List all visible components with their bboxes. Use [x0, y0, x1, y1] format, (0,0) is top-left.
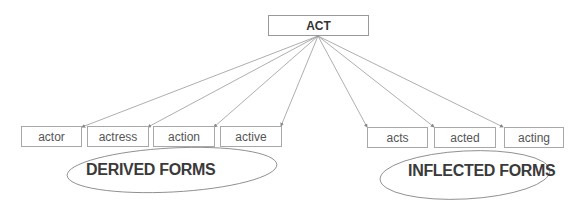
derived-node-action: action — [153, 126, 215, 147]
inflected-node-acts: acts — [367, 127, 428, 148]
root-node-act: ACT — [268, 15, 369, 36]
derived-node-actress: actress — [87, 126, 149, 147]
derived-node-actor: actor — [21, 126, 82, 147]
derived-node-active: active — [220, 126, 282, 147]
inflected-forms-label: INFLECTED FORMS — [408, 162, 556, 180]
inflected-node-acting: acting — [504, 127, 564, 148]
inflected-node-acted: acted — [434, 127, 496, 148]
derived-forms-label: DERIVED FORMS — [86, 161, 215, 179]
